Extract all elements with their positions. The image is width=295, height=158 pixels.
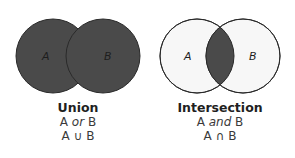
union-circle-b <box>66 19 140 93</box>
venn-diagrams: A B A B <box>0 0 295 100</box>
union-title: Union <box>8 100 148 115</box>
expr-left: A <box>197 115 209 129</box>
intersection-label-a: A <box>183 50 192 63</box>
union-label-a: A <box>41 50 50 63</box>
union-diagram: A B <box>16 19 140 93</box>
intersection-caption: Intersection A and B A ∩ B <box>150 100 290 143</box>
intersection-label-b: B <box>249 50 257 63</box>
union-expression: A or B <box>8 115 148 129</box>
intersection-title: Intersection <box>150 100 290 115</box>
intersection-diagram: A B <box>160 19 280 93</box>
expr-left: A <box>60 115 72 129</box>
union-caption: Union A or B A ∪ B <box>8 100 148 143</box>
expr-right: B <box>84 115 96 129</box>
expr-word: or <box>72 115 84 129</box>
intersection-notation: A ∩ B <box>150 129 290 143</box>
union-label-b: B <box>104 50 112 63</box>
expr-right: B <box>231 115 243 129</box>
union-notation: A ∪ B <box>8 129 148 143</box>
expr-word: and <box>209 115 232 129</box>
intersection-expression: A and B <box>150 115 290 129</box>
